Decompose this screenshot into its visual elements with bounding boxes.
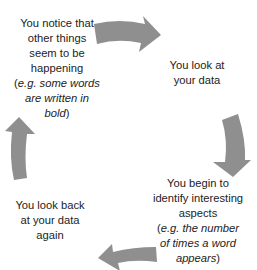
stage-look-back: You look back at your data again (2, 198, 98, 243)
curved-arrow-down-icon (213, 114, 251, 177)
stage-example: appears) (143, 251, 253, 266)
stage-example: are written in (2, 91, 112, 106)
stage-text: at your data (2, 213, 98, 228)
stage-text: again (2, 228, 98, 243)
curved-arrow-up-icon (5, 117, 35, 180)
stage-text: other things (2, 31, 112, 46)
stage-example: (e.g. the number (143, 221, 253, 236)
stage-text: You begin to (143, 176, 253, 191)
stage-text: seem to be (2, 46, 112, 61)
stage-example: (e.g. some words (2, 76, 112, 91)
stage-text: You notice that (2, 16, 112, 31)
stage-look: You look at your data (150, 58, 244, 88)
stage-text: your data (150, 73, 244, 88)
stage-example: bold) (2, 106, 112, 121)
stage-text: You look back (2, 198, 98, 213)
stage-text: happening (2, 61, 112, 76)
stage-text: identify interesting (143, 191, 253, 206)
stage-identify: You begin to identify interesting aspect… (143, 176, 253, 266)
stage-example: of times a word (143, 236, 253, 251)
stage-notice: You notice that other things seem to be … (2, 16, 112, 121)
stage-text: You look at (150, 58, 244, 73)
stage-text: aspects (143, 206, 253, 221)
